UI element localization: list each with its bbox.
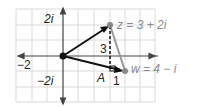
y-axis-neg-arrow-icon [61, 98, 66, 104]
point-z-label: z = 3 + 2i [117, 18, 166, 32]
y-neg-label: −2i [37, 74, 53, 88]
x-axis-arrow-icon [149, 54, 155, 59]
origin-point [60, 53, 67, 60]
x-neg-label: −2 [17, 58, 31, 72]
complex-plane-diagram [0, 0, 197, 107]
y-pos-label: 2i [44, 12, 53, 26]
point-w [122, 68, 128, 74]
point-w-label: w = 4 − i [131, 62, 176, 76]
base-label: 1 [113, 74, 120, 88]
point-z [107, 22, 113, 28]
height-label: 3 [100, 42, 107, 56]
point-a-label: A [97, 71, 105, 85]
